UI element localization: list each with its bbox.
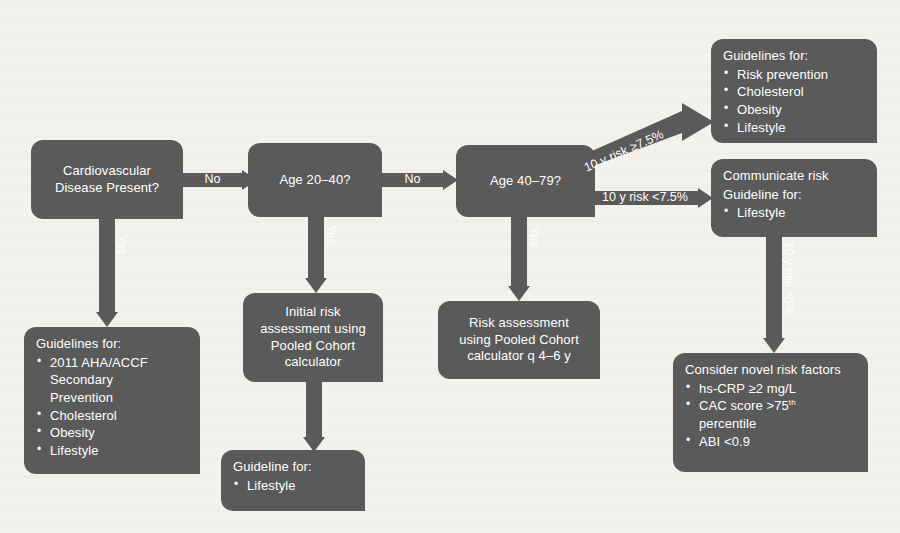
list-item: Secondary (50, 372, 190, 389)
edge-cvd-no-arrow: No (183, 170, 257, 190)
edge-cvd-yes-shaft (99, 219, 115, 312)
edge-cvd-yes-label: Yes (115, 235, 129, 255)
node-risk-assessment-q46[interactable]: Risk assessment using Pooled Cohort calc… (438, 301, 600, 379)
edge-cvd-yes-head (96, 312, 118, 327)
list-item: percentile (699, 416, 858, 433)
edge-age2040-yes-shaft (308, 217, 324, 278)
list-item: Risk prevention (737, 67, 867, 84)
node-secondary-prevention-title: Guidelines for: (36, 336, 190, 353)
node-age-20-40-label: Age 20–40? (279, 172, 350, 189)
list-item: Cholesterol (50, 408, 190, 425)
node-initial-risk-line2: assessment using (260, 321, 366, 336)
node-lifestyle-guideline-list: Lifestyle (233, 478, 355, 495)
cac-score-text: CAC score >75 (699, 399, 789, 414)
cac-score-superscript: th (789, 398, 796, 407)
node-risk-assessment-q46-text: Risk assessment using Pooled Cohort calc… (459, 315, 579, 365)
node-cvd-text: Cardiovascular Disease Present? (55, 163, 159, 196)
node-secondary-prevention[interactable]: Guidelines for: 2011 AHA/ACCF Secondary … (24, 327, 200, 474)
node-age-20-40[interactable]: Age 20–40? (248, 143, 382, 217)
node-communicate-risk-line1: Communicate risk (723, 168, 867, 185)
edge-age2040-yes-arrow: Yes (305, 217, 327, 293)
node-initial-risk-line1: Initial risk (285, 304, 340, 319)
node-communicate-risk[interactable]: Communicate risk Guideline for: Lifestyl… (711, 159, 877, 237)
list-item: ABI <0.9 (699, 434, 858, 451)
list-item: CAC score >75th (699, 398, 858, 415)
edge-age4079-yes-shaft (511, 217, 527, 286)
list-item: Lifestyle (737, 120, 867, 137)
edge-risk-low-label: 10 y risk <7.5% (592, 187, 698, 207)
list-item: 2011 AHA/ACCF (50, 355, 190, 372)
node-communicate-risk-line2: Guideline for: (723, 187, 867, 204)
node-initial-risk-line3: Pooled Cohort (271, 338, 355, 353)
node-guidelines-prevention[interactable]: Guidelines for: Risk prevention Choleste… (711, 39, 877, 143)
edge-age2040-yes-head (305, 278, 327, 293)
edge-cvd-no-label: No (183, 169, 242, 189)
list-item: Obesity (737, 102, 867, 119)
node-cvd-line2: Disease Present? (55, 180, 159, 195)
node-risk-assessment-q46-line3: calculator q 4–6 y (467, 348, 571, 363)
edge-risk-gt5-label: 10 y risk >5% (782, 242, 796, 314)
list-item: Lifestyle (737, 205, 867, 222)
list-item: Obesity (50, 425, 190, 442)
edge-initial-risk-to-lifestyle-arrow (303, 382, 325, 452)
edge-age2040-no-label: No (382, 169, 443, 189)
node-secondary-prevention-list: 2011 AHA/ACCF Secondary Prevention Chole… (36, 355, 190, 460)
node-initial-risk-text: Initial risk assessment using Pooled Coh… (260, 304, 366, 371)
node-initial-risk-assessment[interactable]: Initial risk assessment using Pooled Coh… (243, 293, 383, 382)
node-cvd-line1: Cardiovascular (63, 163, 151, 178)
node-risk-assessment-q46-line2: using Pooled Cohort (459, 332, 579, 347)
edge-age4079-yes-label: Yes (527, 227, 541, 247)
node-guidelines-prevention-title: Guidelines for: (723, 48, 867, 65)
edge-initial-risk-to-lifestyle-shaft (306, 382, 322, 437)
edge-age4079-yes-head (508, 286, 530, 301)
node-initial-risk-line4: calculator (285, 354, 342, 369)
node-lifestyle-guideline[interactable]: Guideline for: Lifestyle (221, 450, 365, 511)
node-risk-assessment-q46-line1: Risk assessment (469, 315, 569, 330)
node-communicate-risk-list: Lifestyle (723, 205, 867, 222)
list-item: Lifestyle (50, 443, 190, 460)
list-item: Cholesterol (737, 84, 867, 101)
edge-age2040-no-arrow: No (382, 170, 458, 190)
node-age-40-79-label: Age 40–79? (490, 173, 561, 190)
node-cardiovascular-disease-present[interactable]: Cardiovascular Disease Present? (31, 140, 183, 219)
edge-cvd-yes-arrow: Yes (96, 219, 118, 327)
edge-risk-low-arrow: 10 y risk <7.5% (592, 188, 713, 208)
edge-age2040-yes-label: Yes (324, 225, 338, 245)
node-novel-risk-factors-title: Consider novel risk factors (685, 362, 858, 379)
node-novel-risk-factors[interactable]: Consider novel risk factors hs-CRP ≥2 mg… (673, 353, 868, 472)
node-lifestyle-guideline-title: Guideline for: (233, 459, 355, 476)
edge-risk-gt5-shaft (766, 237, 782, 338)
flowchart-canvas: Cardiovascular Disease Present? No Age 2… (0, 0, 900, 533)
edge-age4079-yes-arrow: Yes (508, 217, 530, 301)
list-item: hs-CRP ≥2 mg/L (699, 381, 858, 398)
edge-risk-gt5-head (763, 338, 785, 353)
node-guidelines-prevention-list: Risk prevention Cholesterol Obesity Life… (723, 67, 867, 137)
list-item: Lifestyle (247, 478, 355, 495)
list-item: Prevention (50, 390, 190, 407)
edge-risk-gt5-arrow: 10 y risk >5% (763, 237, 785, 353)
node-novel-risk-factors-list: hs-CRP ≥2 mg/L CAC score >75th percentil… (685, 381, 858, 451)
